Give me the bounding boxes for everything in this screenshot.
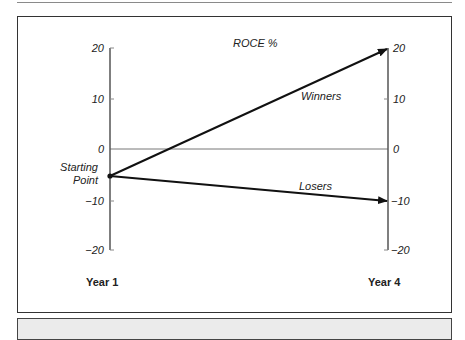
starting-label-line2: Point <box>73 174 99 186</box>
right-tick-0: 0 <box>393 143 400 155</box>
right-axis: 20 10 0 −10 −20 <box>384 42 411 256</box>
left-tick-0: 0 <box>98 143 105 155</box>
left-axis: 20 10 0 −10 −20 <box>85 42 114 256</box>
right-tick-20: 20 <box>392 42 406 54</box>
left-tick-20: 20 <box>91 42 105 54</box>
chart-title: ROCE % <box>233 37 278 49</box>
year-4-label: Year 4 <box>368 276 401 288</box>
losers-label: Losers <box>299 180 333 192</box>
year-1-label: Year 1 <box>86 276 118 288</box>
right-tick-neg10: −10 <box>391 195 411 207</box>
starting-point-dot <box>107 173 112 178</box>
starting-label-line1: Starting <box>60 161 99 173</box>
winners-line <box>110 49 387 176</box>
losers-line <box>110 176 387 201</box>
left-tick-10: 10 <box>92 93 105 105</box>
winners-label: Winners <box>301 90 342 102</box>
left-tick-neg20: −20 <box>85 244 105 256</box>
right-tick-10: 10 <box>393 93 406 105</box>
right-tick-neg20: −20 <box>391 244 411 256</box>
left-tick-neg10: −10 <box>85 195 105 207</box>
